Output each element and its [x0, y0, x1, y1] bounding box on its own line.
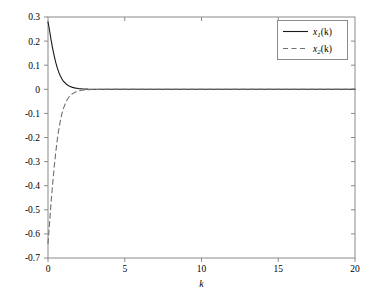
y-tick-label: 0.2 [28, 37, 40, 47]
figure-canvas: 0.3 0.2 0.1 0 -0.1 -0.2 -0.3 -0.4 -0.5 -… [0, 0, 372, 292]
y-tick-label: -0.7 [25, 253, 40, 263]
y-tick-labels: 0.3 0.2 0.1 0 -0.1 -0.2 -0.3 -0.4 -0.5 -… [25, 12, 40, 263]
x-tick-label: 0 [46, 264, 51, 274]
legend-argument: (k) [321, 44, 332, 55]
y-tick-label: -0.6 [25, 229, 40, 239]
x-tick-label: 15 [274, 264, 284, 274]
x-tick-label: 5 [122, 264, 127, 274]
y-tick-label: -0.3 [25, 157, 40, 167]
x-tick-label: 10 [197, 264, 207, 274]
legend-argument: (k) [321, 27, 332, 38]
line-chart: 0.3 0.2 0.1 0 -0.1 -0.2 -0.3 -0.4 -0.5 -… [0, 0, 372, 292]
x-axis-ticks [48, 258, 355, 262]
x-tick-label: 20 [350, 264, 360, 274]
y-tick-label: -0.5 [25, 205, 40, 215]
x-tick-labels: 0 5 10 15 20 [46, 264, 360, 274]
y-tick-label: -0.1 [25, 109, 40, 119]
y-tick-label: 0.1 [28, 61, 40, 71]
y-axis-ticks [44, 17, 48, 258]
y-tick-label: 0.3 [28, 12, 40, 22]
x-axis-title: k [199, 278, 204, 289]
y-tick-label: -0.4 [25, 181, 40, 191]
legend[interactable]: x1(k) x2(k) [278, 21, 348, 60]
y-tick-label: -0.2 [25, 133, 40, 143]
y-tick-label: 0 [35, 85, 40, 95]
